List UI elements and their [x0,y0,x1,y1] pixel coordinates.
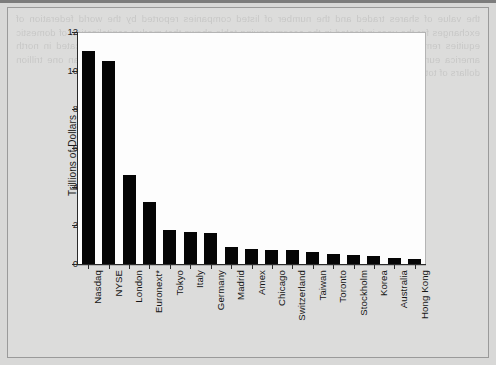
x-axis-label: Germany [215,270,226,310]
x-axis-label: Switzerland [296,270,307,321]
y-axis-tick-label: 0 [56,258,78,269]
y-axis-title: Trillions of Dollars [67,76,78,236]
x-axis-tick [313,265,314,269]
x-axis-tick [170,265,171,269]
bar [184,232,197,264]
x-axis-tick [374,265,375,269]
x-axis-tick [415,265,416,269]
bar [388,258,401,264]
x-axis-label: Chicago [276,270,287,306]
x-axis-tick [231,265,232,269]
scanned-page: the value of shares traded and the numbe… [0,0,496,365]
y-axis-title-host: Trillions of Dollars [36,80,50,220]
x-axis-label: Madrid [235,270,246,300]
bar [225,247,238,264]
x-axis-label: Euronext* [153,270,164,313]
bar [306,252,319,264]
x-axis-tick [292,265,293,269]
bar [163,230,176,264]
bar [408,259,421,264]
x-axis-label: Italy [194,270,205,288]
x-axis-tick [354,265,355,269]
bar [265,250,278,265]
bar [347,255,360,264]
x-axis-label: Stockholm [358,270,369,316]
x-axis-tick [129,265,130,269]
x-axis-tick [109,265,110,269]
bar-series [78,32,425,264]
x-axis-label: Amex [256,270,267,295]
x-axis-label: Nasdaq [92,270,103,304]
y-axis-tick-label-wrap: 0 [46,264,78,265]
x-axis-tick [88,265,89,269]
bar [82,51,95,264]
bar [286,250,299,264]
x-axis-label: Korea [378,270,389,296]
y-axis-tick-label: 10 [56,65,78,76]
bar [327,254,340,264]
x-axis-tick [333,265,334,269]
x-axis-label: Taiwan [317,270,328,300]
x-axis-tick [149,265,150,269]
x-axis-tick [211,265,212,269]
bar [204,233,217,264]
page-top-rule [0,0,496,3]
x-axis-label: NYSE [113,270,124,297]
x-axis-label: London [133,270,144,303]
x-axis-tick [190,265,191,269]
y-axis-tick-label-wrap: 12 [46,32,78,33]
x-axis-tick [394,265,395,269]
y-axis-tick-label: 12 [56,26,78,37]
x-axis-label: Tokyo [174,270,185,296]
x-axis-tick [252,265,253,269]
bar [102,61,115,264]
bar [245,249,258,264]
bar [143,202,156,264]
x-axis-label: Australia [398,270,409,308]
x-axis-tick [272,265,273,269]
y-axis-tick-label-wrap: 10 [46,71,78,72]
x-axis-label: Toronto [337,270,348,303]
bar [367,256,380,264]
x-axis-label: Hong Kong [419,270,430,319]
bar [123,175,136,264]
